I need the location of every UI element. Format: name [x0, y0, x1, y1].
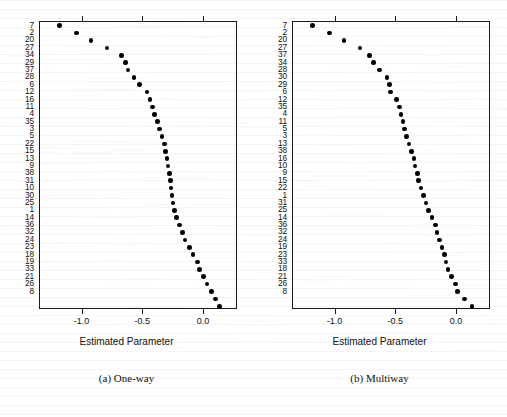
data-point	[74, 31, 79, 36]
data-point	[150, 105, 155, 110]
data-point	[435, 230, 440, 235]
data-point	[165, 156, 170, 161]
data-point	[191, 252, 196, 257]
data-point	[404, 134, 409, 139]
data-point	[462, 297, 467, 302]
data-point	[152, 112, 157, 117]
data-point	[213, 297, 218, 302]
data-point	[407, 142, 412, 147]
x-axis-tick-label: 0.0	[197, 316, 210, 326]
data-point	[399, 112, 404, 117]
data-point	[183, 238, 188, 243]
data-point	[166, 164, 171, 169]
data-point	[453, 282, 458, 287]
panel-one-way: 7220273429372861216114353522151393831103…	[0, 0, 253, 417]
x-axis-title-multiway: Estimated Parameter	[253, 336, 506, 347]
y-axis-labels-multiway: 7220273734283029612354115313381610915221…	[253, 21, 289, 309]
plot-frame-one-way	[39, 21, 237, 309]
data-point	[126, 68, 131, 73]
subcaption-multiway: (b) Multiway	[253, 372, 506, 384]
data-point	[217, 304, 222, 309]
x-axis-tick-mark-top	[203, 16, 204, 21]
data-point	[172, 208, 177, 213]
data-point	[57, 23, 62, 28]
data-point	[449, 274, 454, 279]
dots-layer-multiway	[293, 22, 489, 308]
data-point	[89, 38, 94, 43]
data-point	[415, 171, 420, 176]
data-point	[470, 304, 475, 309]
data-point	[155, 119, 160, 124]
x-axis-tick-label: -1.0	[327, 316, 343, 326]
x-axis-tick-mark-top	[456, 16, 457, 21]
x-axis-tick-mark	[456, 309, 457, 314]
x-axis-tick-mark	[335, 309, 336, 314]
x-axis-tick-label: -0.5	[387, 316, 403, 326]
data-point	[177, 223, 182, 228]
data-point	[342, 38, 347, 43]
data-point	[433, 223, 438, 228]
x-axis-tick-mark-top	[142, 16, 143, 21]
data-point	[195, 260, 200, 265]
data-point	[402, 127, 407, 132]
x-axis-tick-mark	[395, 309, 396, 314]
data-point	[209, 289, 214, 294]
data-point	[169, 186, 174, 191]
y-axis-tick-label: 8	[282, 286, 287, 294]
data-point	[437, 238, 442, 243]
data-point	[444, 260, 449, 265]
data-point	[160, 134, 165, 139]
data-point	[412, 156, 417, 161]
data-point	[170, 193, 175, 198]
data-point	[163, 149, 168, 154]
data-point	[440, 245, 445, 250]
data-point	[310, 23, 315, 28]
data-point	[187, 245, 192, 250]
x-axis-tick-mark-top	[335, 16, 336, 21]
data-point	[327, 31, 332, 36]
dots-layer-one-way	[40, 22, 236, 308]
x-axis-tick-mark	[203, 309, 204, 314]
x-axis-tick-mark-top	[82, 16, 83, 21]
data-point	[413, 164, 418, 169]
data-point	[119, 53, 124, 58]
data-point	[409, 149, 414, 154]
data-point	[123, 60, 128, 65]
data-point	[197, 267, 202, 272]
subcaption-one-way: (a) One-way	[0, 372, 253, 384]
data-point	[168, 178, 173, 183]
data-point	[377, 68, 382, 73]
data-point	[430, 215, 435, 220]
data-point	[358, 46, 363, 51]
data-point	[388, 90, 393, 95]
plot-frame-multiway	[292, 21, 490, 309]
data-point	[167, 171, 172, 176]
data-point	[105, 46, 110, 51]
data-point	[401, 119, 406, 124]
data-point	[446, 267, 451, 272]
y-axis-labels-one-way: 7220273429372861216114353522151393831103…	[0, 21, 36, 309]
data-point	[162, 142, 167, 147]
data-point	[424, 201, 429, 206]
x-axis-tick-label: 0.0	[450, 316, 463, 326]
data-point	[132, 75, 137, 80]
data-point	[148, 97, 153, 102]
data-point	[174, 215, 179, 220]
data-point	[387, 82, 392, 87]
x-axis-tick-label: -1.0	[74, 316, 90, 326]
data-point	[205, 282, 210, 287]
data-point	[145, 90, 150, 95]
y-axis-tick-label: 8	[29, 286, 34, 294]
data-point	[371, 60, 376, 65]
data-point	[419, 186, 424, 191]
data-point	[397, 105, 402, 110]
data-point	[180, 230, 185, 235]
data-point	[137, 82, 142, 87]
figure-dotplot-pair: 7220273429372861216114353522151393831103…	[0, 0, 507, 417]
data-point	[394, 97, 399, 102]
data-point	[416, 178, 421, 183]
data-point	[201, 274, 206, 279]
data-point	[455, 289, 460, 294]
data-point	[171, 201, 176, 206]
panel-multiway: 7220273734283029612354115313381610915221…	[253, 0, 506, 417]
